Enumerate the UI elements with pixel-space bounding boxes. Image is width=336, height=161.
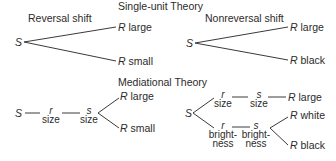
edge-s-r-large bbox=[24, 27, 116, 42]
med-s-size: s size bbox=[78, 106, 100, 124]
mediational-title: Mediational Theory bbox=[118, 77, 207, 88]
med-nr-response-r-large: R large bbox=[288, 92, 322, 103]
med-nr-upper-r-size: r size bbox=[211, 90, 235, 108]
med-nr-response-r-white: R white bbox=[290, 110, 325, 121]
edge-s-r-large-nr bbox=[195, 27, 288, 43]
med-nr-lower-s-brightness: s bright- ness bbox=[238, 121, 274, 148]
stimulus-s-nr: S bbox=[186, 38, 193, 49]
med-r-size: r size bbox=[40, 106, 62, 124]
med-nr-upper-s-size: s size bbox=[248, 90, 270, 108]
reversal-shift-label: Reversal shift bbox=[28, 13, 92, 24]
stimulus-s: S bbox=[15, 37, 22, 48]
response-r-large: R large bbox=[118, 22, 152, 33]
response-r-large-nr: R large bbox=[290, 22, 324, 33]
med-stimulus-s: S bbox=[15, 108, 22, 119]
nonreversal-shift-label: Nonreversal shift bbox=[205, 13, 284, 24]
med-nr-lower-r-brightness: r bright- ness bbox=[205, 121, 241, 148]
med-response-r-small: R small bbox=[120, 123, 155, 134]
edge-s-r-large-med bbox=[98, 98, 119, 113]
edge-s-r-small-med bbox=[98, 113, 119, 128]
med-nr-stimulus-s: S bbox=[185, 108, 192, 119]
med-response-r-large: R large bbox=[120, 91, 154, 102]
med-nr-response-r-black: R black bbox=[290, 140, 325, 151]
edge-s-r-small bbox=[24, 42, 116, 61]
response-r-black-nr: R black bbox=[290, 55, 325, 66]
edge-s-r-black-nr bbox=[195, 43, 288, 60]
single-unit-title: Single-unit Theory bbox=[118, 1, 203, 12]
response-r-small: R small bbox=[118, 56, 153, 67]
